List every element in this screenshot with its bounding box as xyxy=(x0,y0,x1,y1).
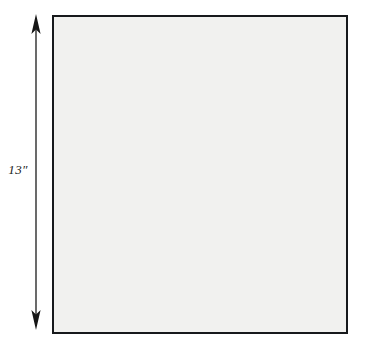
starfield-image-frame xyxy=(52,15,348,334)
sky-background xyxy=(54,17,346,332)
scale-bar-label: 13″ xyxy=(2,163,34,176)
figure-root: 13″ xyxy=(0,0,367,348)
